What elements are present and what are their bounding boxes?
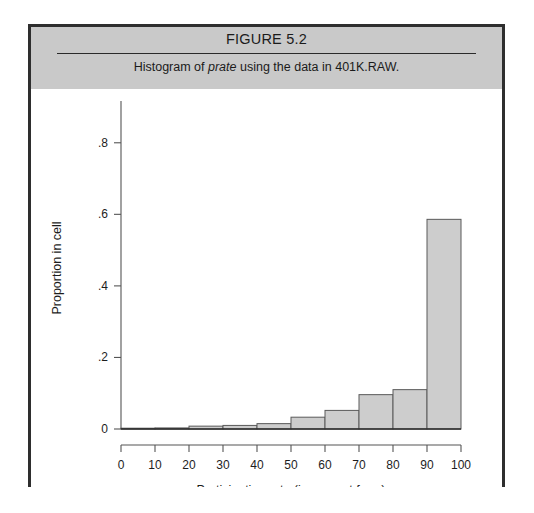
figure-subtitle-variable: prate [208, 60, 237, 74]
x-tick-label: 30 [216, 458, 230, 472]
y-tick-label: .8 [98, 136, 108, 150]
x-tick-label: 20 [182, 458, 196, 472]
figure-frame: FIGURE 5.2 Histogram of prate using the … [28, 24, 505, 487]
histogram-bar [393, 390, 427, 429]
x-tick-label: 100 [451, 458, 471, 472]
x-tick-label: 50 [284, 458, 298, 472]
y-tick-label: 0 [101, 422, 108, 436]
histogram-plot: 0.2.4.6.80102030405060708090100Participa… [31, 89, 502, 487]
y-tick-label: .6 [98, 207, 108, 221]
y-tick-label: .4 [98, 279, 108, 293]
y-axis-title: Proportion in cell [50, 221, 64, 314]
title-divider [57, 53, 476, 54]
x-tick-label: 10 [148, 458, 162, 472]
figure-title: FIGURE 5.2 [31, 31, 502, 47]
x-tick-label: 40 [250, 458, 264, 472]
histogram-bars [121, 219, 461, 429]
x-tick-label: 90 [420, 458, 434, 472]
histogram-bar [291, 417, 325, 429]
x-tick-label: 80 [386, 458, 400, 472]
x-axis-title: Participation rate (in percent form) [197, 483, 386, 487]
figure-subtitle-suffix: using the data in 401K.RAW. [237, 60, 400, 74]
histogram-svg: 0.2.4.6.80102030405060708090100Participa… [31, 89, 502, 487]
x-tick-label: 70 [352, 458, 366, 472]
histogram-bar [427, 219, 461, 429]
x-tick-label: 0 [118, 458, 125, 472]
y-tick-label: .2 [98, 350, 108, 364]
histogram-bar [257, 424, 291, 429]
figure-caption-band: FIGURE 5.2 Histogram of prate using the … [31, 27, 502, 89]
histogram-labels: 0.2.4.6.80102030405060708090100Participa… [50, 136, 471, 487]
x-tick-label: 60 [318, 458, 332, 472]
figure-subtitle-prefix: Histogram of [134, 60, 208, 74]
histogram-bar [359, 395, 393, 429]
histogram-bar [325, 410, 359, 429]
figure-subtitle: Histogram of prate using the data in 401… [31, 60, 502, 74]
